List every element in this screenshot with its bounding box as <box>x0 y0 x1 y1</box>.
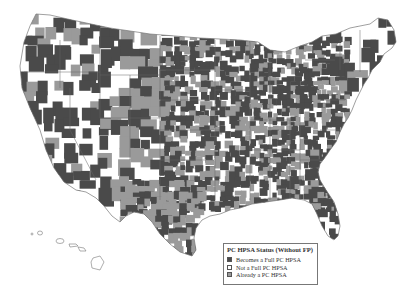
legend-title: PC HPSA Status (Without FP) <box>227 246 314 253</box>
legend-label: Not a Full PC HPSA <box>236 264 288 272</box>
legend-item-not-full: Not a Full PC HPSA <box>227 264 314 272</box>
legend-label: Already a PC HPSA <box>236 271 287 279</box>
swatch-not-full <box>227 265 232 270</box>
us-county-map <box>0 0 415 298</box>
hawaii-islands <box>31 231 104 270</box>
map-legend: PC HPSA Status (Without FP) Becomes a Fu… <box>223 243 318 285</box>
legend-item-becomes-full: Becomes a Full PC HPSA <box>227 256 314 264</box>
legend-item-already: Already a PC HPSA <box>227 271 314 279</box>
swatch-already <box>227 272 232 277</box>
county-fills <box>0 0 415 298</box>
swatch-becomes-full <box>227 257 232 262</box>
legend-label: Becomes a Full PC HPSA <box>236 256 301 264</box>
